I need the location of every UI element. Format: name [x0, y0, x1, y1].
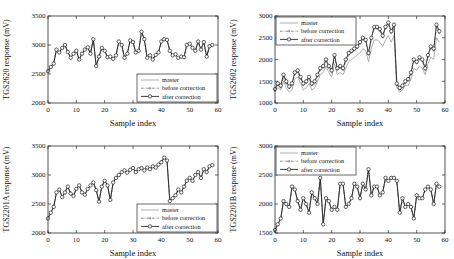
- x-tick-label: 20: [101, 235, 109, 243]
- x-tick-label: 60: [215, 235, 223, 243]
- legend-label: after correction: [301, 36, 340, 43]
- y-tick-label: 3500: [32, 12, 47, 20]
- x-tick-label: 60: [442, 106, 450, 114]
- x-tick-label: 30: [130, 235, 138, 243]
- chart-tgs2201a-cell: 01020304050602000250030003500TGS2201A re…: [0, 130, 227, 259]
- y-tick-label: 3000: [32, 171, 47, 179]
- legend-label: after correction: [301, 165, 340, 172]
- legend-circle-marker: [287, 38, 290, 41]
- x-tick-label: 30: [357, 235, 365, 243]
- x-tick-label: 0: [273, 106, 277, 114]
- series-line-before-correction: [48, 32, 212, 71]
- legend-label: master: [162, 76, 180, 83]
- x-tick-label: 10: [73, 106, 81, 114]
- y-tick-label: 2500: [32, 70, 47, 78]
- x-tick-label: 10: [300, 235, 308, 243]
- legend-circle-marker: [287, 167, 290, 170]
- legend: masterbefore correctionafter correction: [137, 74, 217, 102]
- y-tick-label: 1500: [259, 78, 274, 86]
- x-tick-label: 50: [413, 106, 421, 114]
- legend: masterbefore correctionafter correction: [276, 17, 356, 45]
- series-line-before-correction: [275, 169, 439, 230]
- y-tick-label: 3000: [32, 41, 47, 49]
- x-tick-label: 10: [300, 106, 308, 114]
- y-tick-label: 2500: [259, 34, 274, 42]
- chart-tgs2201a: 01020304050602000250030003500TGS2201A re…: [0, 130, 227, 259]
- legend-label: master: [162, 206, 180, 213]
- chart-tgs2620-cell: 01020304050602000250030003500TGS2620 res…: [0, 0, 227, 130]
- chart-tgs2602-cell: 010203040506010001500200025003000TGS2602…: [227, 0, 454, 130]
- x-tick-label: 50: [413, 235, 421, 243]
- legend-label: master: [301, 149, 319, 156]
- chart-tgs2602: 010203040506010001500200025003000TGS2602…: [227, 0, 454, 130]
- x-tick-label: 40: [385, 106, 393, 114]
- series-line-after-correction: [275, 169, 439, 230]
- x-tick-label: 60: [442, 235, 450, 243]
- x-tick-label: 30: [357, 106, 365, 114]
- x-tick-label: 10: [73, 235, 81, 243]
- x-tick-label: 0: [273, 235, 277, 243]
- x-tick-label: 20: [101, 106, 109, 114]
- legend-circle-marker: [148, 224, 151, 227]
- chart-tgs2201b-cell: 01020304050601500200025003000TGS2201B re…: [227, 130, 454, 259]
- legend-label: after correction: [162, 93, 201, 100]
- x-tick-label: 20: [328, 235, 336, 243]
- series-line-master: [275, 169, 439, 230]
- star-markers: [47, 31, 214, 73]
- y-tick-label: 2000: [32, 229, 47, 237]
- x-tick-label: 30: [130, 106, 138, 114]
- x-tick-label: 40: [158, 235, 166, 243]
- legend: masterbefore correctionafter correction: [137, 204, 217, 232]
- y-tick-label: 2000: [259, 56, 274, 64]
- legend-label: before correction: [301, 27, 345, 34]
- chart-tgs2620: 01020304050602000250030003500TGS2620 res…: [0, 0, 227, 130]
- legend-label: before correction: [162, 214, 206, 221]
- series-line-master: [48, 32, 212, 71]
- x-tick-label: 0: [46, 235, 50, 243]
- x-tick-label: 50: [186, 235, 194, 243]
- chart-tgs2201b: 01020304050601500200025003000TGS2201B re…: [227, 130, 454, 259]
- y-axis-label: TGS2602 response (mV): [229, 19, 238, 100]
- y-tick-label: 2500: [32, 200, 47, 208]
- x-axis-label: Sample index: [110, 118, 157, 128]
- legend-circle-marker: [148, 95, 151, 98]
- y-tick-label: 3500: [32, 142, 47, 150]
- legend-label: after correction: [162, 222, 201, 229]
- legend-label: before correction: [301, 157, 345, 164]
- x-axis-label: Sample index: [337, 118, 384, 128]
- x-tick-label: 20: [328, 106, 336, 114]
- y-axis-label: TGS2201A response (mV): [2, 146, 11, 232]
- legend-label: before correction: [162, 84, 206, 91]
- x-tick-label: 60: [215, 106, 223, 114]
- x-tick-label: 40: [158, 106, 166, 114]
- legend: masterbefore correctionafter correction: [276, 147, 356, 175]
- y-axis-label: TGS2201B response (mV): [229, 146, 238, 232]
- y-tick-label: 1500: [259, 229, 274, 237]
- y-tick-label: 2000: [32, 99, 47, 107]
- y-tick-label: 2500: [259, 171, 274, 179]
- series-line-after-correction: [48, 32, 212, 71]
- sensor-response-figure: 01020304050602000250030003500TGS2620 res…: [0, 0, 454, 259]
- x-tick-label: 40: [385, 235, 393, 243]
- x-tick-label: 50: [186, 106, 194, 114]
- y-tick-label: 2000: [259, 200, 274, 208]
- x-axis-label: Sample index: [337, 248, 384, 258]
- y-tick-label: 1000: [259, 99, 274, 107]
- circle-markers: [46, 30, 214, 73]
- y-tick-label: 3000: [259, 12, 274, 20]
- y-axis-label: TGS2620 response (mV): [2, 19, 11, 100]
- x-axis-label: Sample index: [110, 248, 157, 258]
- y-tick-label: 3000: [259, 142, 274, 150]
- x-tick-label: 0: [46, 106, 50, 114]
- legend-label: master: [301, 19, 319, 26]
